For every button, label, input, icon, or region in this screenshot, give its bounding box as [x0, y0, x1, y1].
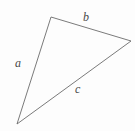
side-label-a: a: [15, 57, 21, 69]
side-label-c: c: [75, 83, 80, 95]
triangle-figure: a b c: [0, 0, 135, 131]
side-label-b: b: [83, 11, 89, 23]
triangle-polygon: [17, 17, 131, 124]
